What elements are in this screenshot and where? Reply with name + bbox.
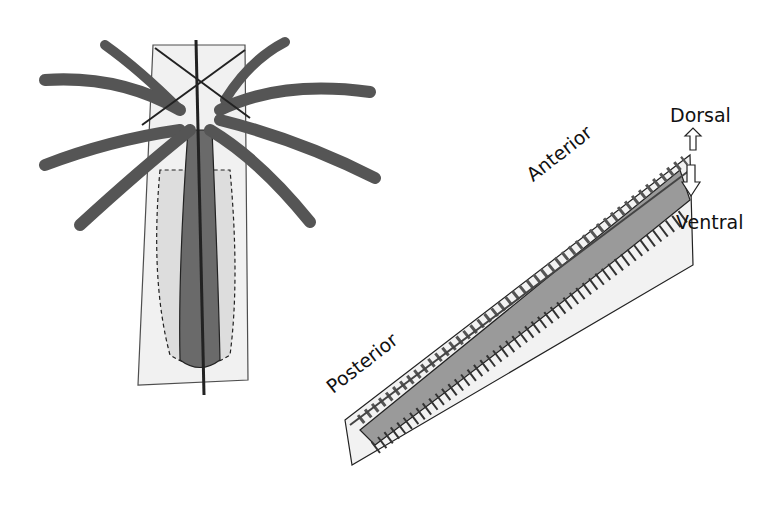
worm — [345, 155, 693, 465]
label-dorsal: Dorsal — [670, 104, 731, 126]
radial-symmetry-illustration — [0, 0, 781, 524]
dorsal-arrow-icon — [685, 128, 701, 150]
label-ventral: Ventral — [676, 211, 743, 233]
polyp — [45, 40, 375, 395]
